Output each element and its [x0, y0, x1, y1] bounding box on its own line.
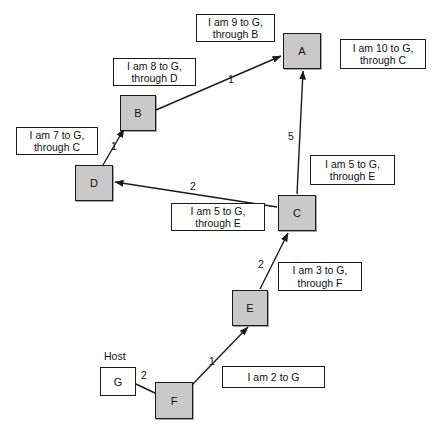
node-label: A [298, 45, 305, 57]
edge-weight-b-to-a: 1 [228, 73, 234, 85]
node-e[interactable]: E [232, 290, 268, 326]
node-label: E [246, 302, 253, 314]
message-box-msg-9-b: I am 9 to G, through B [196, 14, 275, 42]
host-caption-label: Host [104, 350, 126, 362]
message-box-msg-8-d: I am 8 to G, through D [113, 58, 196, 86]
message-text: I am 8 to G, through D [127, 60, 182, 85]
node-label: G [114, 376, 123, 388]
node-label: D [90, 177, 98, 189]
message-box-msg-5-e-left: I am 5 to G, through E [171, 203, 265, 231]
node-b[interactable]: B [120, 95, 156, 131]
node-g[interactable]: G [100, 367, 136, 396]
message-box-msg-7-c: I am 7 to G, through C [16, 127, 98, 155]
edge-weight-f-to-e: 1 [209, 355, 215, 367]
message-text: I am 7 to G, through C [30, 129, 85, 154]
message-text: I am 2 to G [248, 371, 300, 384]
edge-weight-c-to-a: 5 [288, 130, 294, 142]
edge-weight-e-to-c: 2 [258, 258, 264, 270]
message-box-msg-2-g: I am 2 to G [222, 366, 325, 388]
message-text: I am 10 to G, through C [353, 42, 414, 67]
message-box-msg-10-c: I am 10 to G, through C [340, 39, 426, 69]
node-label: C [293, 207, 301, 219]
node-f[interactable]: F [155, 382, 193, 419]
edge-g-to-f [136, 384, 157, 394]
node-label: F [171, 395, 178, 407]
node-d[interactable]: D [75, 165, 113, 201]
message-text: I am 9 to G, through B [208, 16, 263, 41]
message-text: I am 5 to G, through E [325, 158, 380, 183]
message-text: I am 3 to G, through F [293, 264, 348, 289]
node-label: B [134, 107, 141, 119]
edge-weight-d-to-b: 1 [111, 140, 117, 152]
edge-weight-g-to-f: 2 [141, 369, 147, 381]
node-c[interactable]: C [278, 195, 316, 231]
routing-diagram: ABCDEFG 1125212 I am 9 to G, through BI … [0, 0, 438, 429]
message-box-msg-5-e-right: I am 5 to G, through E [310, 155, 395, 185]
edge-weight-c-to-d: 2 [190, 180, 196, 192]
message-box-msg-3-f: I am 3 to G, through F [278, 262, 362, 291]
message-text: I am 5 to G, through E [191, 205, 246, 230]
edge-c-to-a [297, 71, 303, 194]
node-a[interactable]: A [283, 33, 321, 69]
